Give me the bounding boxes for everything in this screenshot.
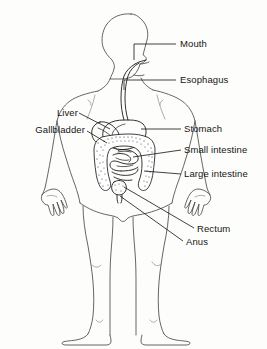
anus-outline-2 (121, 195, 122, 203)
label-gallbladder: Gallbladder (0, 124, 85, 135)
right-nipple-detail (160, 100, 163, 105)
right-leg-inner-outline (133, 217, 136, 335)
right-arm-outline (153, 90, 210, 195)
right-knee-detail (152, 262, 161, 266)
neck-left-outline (98, 79, 110, 91)
right-chest-detail (157, 95, 165, 119)
small-intestine-coil-4 (112, 169, 138, 175)
right-hand-crease (195, 195, 205, 197)
right-foot-outline (141, 334, 190, 345)
label-large-intestine: Large intestine (184, 168, 248, 179)
pelvis-outline (80, 203, 172, 222)
anus-outline (117, 195, 118, 203)
left-ankle-detail (96, 320, 103, 322)
label-liver: Liver (0, 107, 78, 118)
label-stomach: Stomach (184, 123, 222, 134)
body-outline-group (41, 14, 210, 345)
small-intestine-coils (110, 150, 138, 181)
head-outline (102, 14, 148, 79)
small-intestine-coil-5 (114, 177, 132, 180)
left-chest-detail (87, 95, 95, 119)
left-leg-outer-outline (83, 206, 94, 334)
label-rectum: Rectum (197, 223, 230, 234)
rectum-stipple (115, 184, 124, 192)
small-intestine-coil-2 (121, 167, 138, 171)
esophagus-left-wall (121, 64, 135, 120)
left-hand-outline (41, 189, 67, 216)
left-foot-outline (62, 334, 111, 345)
right-leg-outer-outline (158, 206, 169, 334)
rectum-outline (112, 181, 127, 196)
digestive-system-diagram: Mouth Esophagus Liver Gallbladder Stomac… (0, 0, 267, 349)
label-small-intestine: Small intestine (184, 144, 247, 155)
small-intestine-coil-8 (118, 151, 131, 152)
label-esophagus: Esophagus (180, 74, 228, 85)
label-anus: Anus (186, 236, 208, 247)
right-hand-outline (185, 189, 211, 216)
left-knee-detail (92, 265, 101, 267)
left-nipple-detail (88, 100, 91, 105)
small-intestine-coil-6 (116, 158, 129, 160)
left-leg-inner-outline (110, 217, 113, 335)
leader-rectum (124, 187, 194, 228)
small-intestine-coil-7 (117, 165, 133, 167)
label-mouth: Mouth (180, 38, 207, 49)
left-hand-crease (47, 195, 57, 197)
jaw-detail (134, 75, 144, 76)
right-ankle-detail (150, 320, 157, 322)
digestive-organs-group (92, 60, 155, 203)
